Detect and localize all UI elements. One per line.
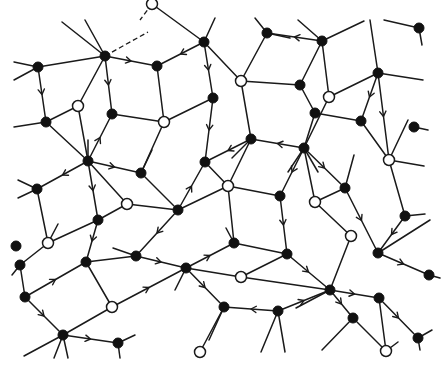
open-vertex-n17	[159, 117, 170, 128]
filled-vertex-n14	[208, 93, 218, 103]
edge-n7-n12	[78, 56, 105, 106]
edge-n1-n2	[152, 4, 204, 42]
graph-vertices	[11, 0, 434, 358]
filled-vertex-n18	[246, 134, 256, 144]
filled-vertex-n52	[374, 293, 384, 303]
open-vertex-n28	[122, 199, 133, 210]
edge-n13-n17	[112, 114, 164, 122]
edge-n23-n29	[141, 173, 178, 210]
filled-vertex-n35	[93, 215, 103, 225]
filled-vertex-n51	[273, 306, 283, 316]
open-vertex-n32	[310, 197, 321, 208]
filled-vertex-n54	[113, 338, 123, 348]
edge-n6-n7	[38, 56, 105, 67]
open-vertex-n40	[346, 231, 357, 242]
edge-n26-n34	[389, 160, 405, 216]
filled-vertex-n48	[20, 292, 30, 302]
filled-vertex-n16	[41, 117, 51, 127]
edge-n19-n25	[304, 97, 329, 148]
filled-vertex-n31	[275, 191, 285, 201]
filled-vertex-n53	[58, 330, 68, 340]
edge-n40-n46	[330, 236, 351, 290]
edge-n38-n39	[234, 243, 287, 254]
filled-vertex-n27	[32, 184, 42, 194]
filled-vertex-n6	[33, 62, 43, 72]
filled-vertex-n29	[173, 205, 183, 215]
edge-n28-n29	[127, 204, 178, 210]
edge-n56-n58	[353, 318, 386, 351]
edge-n3-n9	[241, 33, 267, 81]
open-vertex-n58	[381, 346, 392, 357]
edge-n32-n40	[315, 202, 351, 236]
graph-edges	[20, 4, 429, 352]
filled-vertex-n22	[83, 156, 93, 166]
open-vertex-n12	[73, 101, 84, 112]
edge-n49-n53	[63, 307, 112, 335]
filled-vertex-n39	[282, 249, 292, 259]
edge-n4-n10	[300, 41, 322, 85]
filled-vertex-n42	[15, 260, 25, 270]
open-vertex-n30	[223, 181, 234, 192]
open-vertex-n19	[324, 92, 335, 103]
filled-vertex-n24	[200, 157, 210, 167]
filled-vertex-n20	[409, 122, 419, 132]
filled-vertex-n11	[373, 68, 383, 78]
edge-n39-n45	[241, 254, 287, 277]
filled-vertex-n2	[199, 37, 209, 47]
edge-n35-n36	[48, 220, 98, 243]
filled-vertex-n5	[414, 23, 424, 33]
filled-vertex-n8	[152, 61, 162, 71]
edge-n27-n36	[37, 189, 48, 243]
filled-vertex-n25	[299, 143, 309, 153]
filled-vertex-n21	[356, 116, 366, 126]
open-vertex-n45	[236, 272, 247, 283]
open-vertex-n1	[147, 0, 158, 10]
edge-n14-n17	[164, 98, 213, 122]
edge-n15-n21	[315, 113, 361, 121]
filled-vertex-n15	[310, 108, 320, 118]
filled-vertex-n10	[295, 80, 305, 90]
edge-n50-n55	[200, 307, 224, 352]
filled-vertex-n37	[131, 251, 141, 261]
filled-vertex-n7	[100, 51, 110, 61]
open-vertex-n9	[236, 76, 247, 87]
tiling-graph-diagram	[0, 0, 443, 373]
edge-n37-n43	[86, 256, 136, 262]
filled-vertex-n56	[348, 313, 358, 323]
filled-vertex-n43	[81, 257, 91, 267]
open-vertex-n26	[384, 155, 395, 166]
filled-vertex-n41	[373, 248, 383, 258]
edge-n9-n18	[241, 81, 251, 139]
filled-vertex-n44	[181, 263, 191, 273]
filled-vertex-n33	[340, 183, 350, 193]
filled-vertex-n46	[325, 285, 335, 295]
filled-vertex-n57	[413, 333, 423, 343]
open-vertex-n36	[43, 238, 54, 249]
filled-vertex-n4	[317, 36, 327, 46]
filled-vertex-n50	[219, 302, 229, 312]
open-vertex-n55	[195, 347, 206, 358]
edge-n52-n58	[379, 298, 386, 351]
edge-n30-n31	[228, 186, 280, 196]
filled-vertex-n3	[262, 28, 272, 38]
edge-n8-n17	[157, 66, 164, 122]
filled-vertex-n23	[136, 168, 146, 178]
filled-vertex-n34	[400, 211, 410, 221]
edge-n4-n19	[322, 41, 329, 97]
filled-vertex-n13	[107, 109, 117, 119]
filled-vertex-n47	[424, 270, 434, 280]
edge-n9-n10	[241, 81, 300, 85]
edge-n17-n23	[141, 122, 164, 173]
filled-vertex-n38	[229, 238, 239, 248]
open-vertex-n49	[107, 302, 118, 313]
edge-n43-n49	[86, 262, 112, 307]
filled-vertex-n59	[11, 241, 21, 251]
